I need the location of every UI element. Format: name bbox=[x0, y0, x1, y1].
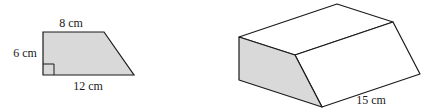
trapezoid-figure: 8 cm 6 cm 12 cm bbox=[13, 16, 134, 93]
bottom-side-label: 12 cm bbox=[73, 79, 103, 93]
prism-figure: 15 cm bbox=[239, 4, 420, 107]
figure: 8 cm 6 cm 12 cm 15 cm bbox=[0, 0, 437, 112]
top-side-label: 8 cm bbox=[59, 16, 83, 30]
length-label: 15 cm bbox=[356, 93, 386, 107]
height-label: 6 cm bbox=[13, 46, 37, 60]
trapezoid-shape bbox=[43, 32, 134, 75]
